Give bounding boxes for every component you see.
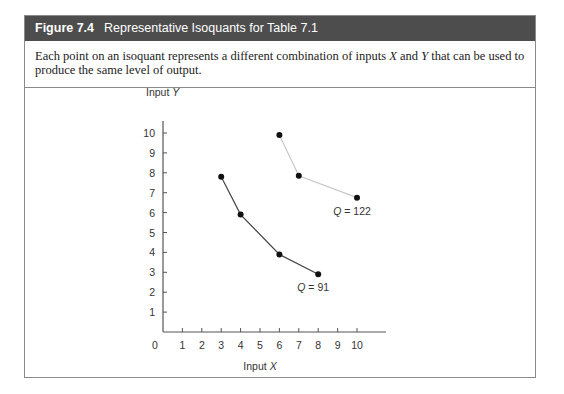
x-tick-label: 3	[218, 339, 224, 351]
data-point	[354, 195, 360, 201]
y-tick-label: 4	[149, 246, 155, 258]
x-tick-label: 7	[296, 339, 302, 351]
x-tick-label: 9	[335, 339, 341, 351]
y-tick-label: 7	[149, 187, 155, 199]
x-tick-label: 8	[315, 339, 321, 351]
isoquant-chart: 01234567891012345678910Input YInput XQ =…	[0, 0, 564, 394]
data-point	[276, 132, 282, 138]
x-tick-label: 10	[351, 339, 363, 351]
data-point	[238, 212, 244, 218]
data-point	[315, 271, 321, 277]
isoquant-label: Q = 91	[297, 281, 329, 293]
data-point	[296, 173, 302, 179]
y-tick-label: 3	[149, 266, 155, 278]
x-tick-label: 1	[179, 339, 185, 351]
y-tick-label: 6	[149, 207, 155, 219]
isoquant-line	[279, 135, 357, 198]
x-tick-label: 4	[238, 339, 244, 351]
x-axis-label: Input X	[243, 360, 277, 372]
y-tick-label: 5	[149, 227, 155, 239]
y-tick-label: 10	[143, 127, 155, 139]
data-point	[276, 251, 282, 257]
data-point	[218, 174, 224, 180]
x-tick-label: 5	[257, 339, 263, 351]
y-tick-label: 8	[149, 167, 155, 179]
x-tick-label: 2	[199, 339, 205, 351]
isoquant-line	[221, 177, 318, 275]
x-tick-label: 0	[152, 339, 158, 351]
y-tick-label: 2	[149, 286, 155, 298]
y-axis-label: Input Y	[146, 86, 180, 98]
y-tick-label: 9	[149, 147, 155, 159]
isoquant-label: Q = 122	[333, 205, 371, 217]
y-tick-label: 1	[149, 306, 155, 318]
x-tick-label: 6	[276, 339, 282, 351]
